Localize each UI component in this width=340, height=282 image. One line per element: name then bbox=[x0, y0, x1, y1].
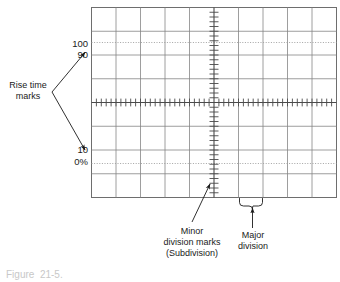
annotation-major-division-line1: Major bbox=[224, 230, 282, 241]
annotation-rise-time-marks-line1: Rise time bbox=[4, 80, 52, 91]
annotation-rise-time-marks-line2: marks bbox=[4, 91, 52, 102]
rise-time-marks-leader bbox=[52, 53, 85, 151]
figure-container: 100 90 10 0% Rise time marks Minor divis… bbox=[0, 0, 340, 282]
scale-label-10: 10 bbox=[64, 144, 88, 155]
scale-label-0-percent: 0% bbox=[60, 156, 88, 167]
figure-caption: Figure 21-5. bbox=[6, 269, 63, 280]
major-division-brace bbox=[240, 199, 263, 210]
annotation-major-division-line2: division bbox=[224, 241, 282, 252]
annotation-minor-division-line1: Minor bbox=[150, 226, 234, 237]
scale-label-90: 90 bbox=[64, 49, 88, 60]
scale-label-100: 100 bbox=[64, 38, 88, 49]
